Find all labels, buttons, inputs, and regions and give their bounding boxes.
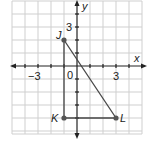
tick-label-y-3: 3 xyxy=(66,21,72,33)
point-label-j: J xyxy=(55,29,62,41)
tick-label-x-neg3: −3 xyxy=(28,70,41,82)
tick-label-x-3: 3 xyxy=(113,70,119,82)
x-axis xyxy=(10,64,147,69)
x-axis-label: x xyxy=(133,52,140,64)
point-label-k: K xyxy=(51,112,59,124)
coordinate-plane: x y −3 0 3 3 J K L xyxy=(0,0,153,148)
point-k xyxy=(61,115,66,120)
point-j xyxy=(61,37,66,42)
y-axis-label: y xyxy=(81,0,89,12)
point-l xyxy=(113,115,118,120)
point-label-l: L xyxy=(120,112,126,124)
tick-label-origin: 0 xyxy=(67,69,73,81)
